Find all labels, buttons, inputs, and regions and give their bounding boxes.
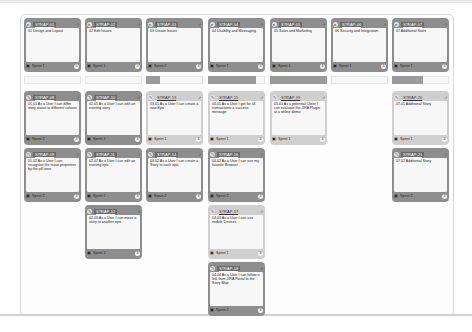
card-tools-icon[interactable]: ↗ xyxy=(76,22,79,27)
card-tools-icon[interactable]: ↗ xyxy=(76,95,79,100)
issue-key-link[interactable]: STRAP-09 xyxy=(33,152,56,157)
issue-key-link[interactable]: STRAP-13 xyxy=(155,95,178,100)
sprint-icon: ▣ xyxy=(272,137,276,141)
story-points-badge: 3 xyxy=(258,137,263,142)
card-tools-icon[interactable]: ↗ xyxy=(260,95,263,100)
issue-key-link[interactable]: STRAP-18 xyxy=(217,266,240,271)
sprint-label: Sprint 2 xyxy=(32,137,44,141)
issue-key-link[interactable]: STRAP-01 xyxy=(33,22,56,27)
story-icon: ✎ xyxy=(210,152,215,157)
story-summary: 02.03 As a User I can move a story to an… xyxy=(87,215,140,249)
epic-card[interactable]: ◐STRAP-04↗04 Usability and Messaging▣Spr… xyxy=(208,18,265,72)
card-tools-icon[interactable]: ↗ xyxy=(137,152,140,157)
issue-key-link[interactable]: STRAP-06 xyxy=(340,22,363,27)
issue-key-link[interactable]: STRAP-05 xyxy=(279,22,302,27)
story-card[interactable]: ✎STRAP-08↗01.01 As a User I can differ s… xyxy=(24,91,81,145)
story-card[interactable]: ✎STRAP-19↗05.01 As a potential Client I … xyxy=(270,91,327,145)
story-card[interactable]: ✎STRAP-21↗07.02 Additional Story▣Sprint … xyxy=(392,148,449,202)
card-footer: ▣Sprint 13 xyxy=(272,135,325,143)
card-header: ✎STRAP-15↗ xyxy=(210,93,263,101)
sprint-icon: ▣ xyxy=(148,137,152,141)
card-tools-icon[interactable]: ↗ xyxy=(383,22,386,27)
card-tools-icon[interactable]: ↗ xyxy=(444,95,447,100)
release-slot xyxy=(85,76,142,84)
issue-key-link[interactable]: STRAP-16 xyxy=(217,152,240,157)
card-tools-icon[interactable]: ↗ xyxy=(198,95,201,100)
card-tools-icon[interactable]: ↗ xyxy=(444,22,447,27)
sprint-icon: ▣ xyxy=(87,251,91,255)
card-tools-icon[interactable]: ↗ xyxy=(137,22,140,27)
epic-card[interactable]: ◐STRAP-06↗06 Security and Integration▣Sp… xyxy=(331,18,388,72)
sprint-label: Sprint 2 xyxy=(154,194,166,198)
epic-card[interactable]: ◐STRAP-03↗03 Create Issues▣Sprint 23 xyxy=(146,18,203,72)
story-card[interactable]: ✎STRAP-14↗03.02 As a User I can create a… xyxy=(146,148,203,202)
card-footer: ▣Sprint 23 xyxy=(394,192,447,200)
epic-title: 03 Create Issues xyxy=(148,28,201,62)
issue-key-link[interactable]: STRAP-11 xyxy=(94,152,117,157)
issue-key-link[interactable]: STRAP-21 xyxy=(401,152,424,157)
story-card[interactable]: ✎STRAP-13↗03.01 As a User I can create a… xyxy=(146,91,203,145)
story-card[interactable]: ✎STRAP-12↗02.03 As a User I can move a s… xyxy=(85,205,142,259)
issue-key-link[interactable]: STRAP-14 xyxy=(155,152,178,157)
card-tools-icon[interactable]: ↗ xyxy=(444,152,447,157)
card-tools-icon[interactable]: ↗ xyxy=(76,152,79,157)
story-card[interactable]: ✎STRAP-10↗02.01 As a User I can edit an … xyxy=(85,91,142,145)
card-footer: ▣Sprint 23 xyxy=(210,306,263,314)
story-card[interactable]: ✎STRAP-20↗07.01 Additional Story▣Sprint … xyxy=(392,91,449,145)
epic-card[interactable]: ◐STRAP-02↗02 Edit Issues▣Sprint 12 xyxy=(85,18,142,72)
card-tools-icon[interactable]: ↗ xyxy=(198,22,201,27)
issue-key-link[interactable]: STRAP-08 xyxy=(33,95,56,100)
card-footer: ▣Sprint 13 xyxy=(272,62,325,70)
card-header: ✎STRAP-18↗ xyxy=(210,264,263,272)
epic-title: 04 Usability and Messaging xyxy=(210,28,263,62)
story-summary: 04.04 As a User I can follow a link from… xyxy=(210,272,263,306)
story-card[interactable]: ✎STRAP-18↗04.04 As a User I can follow a… xyxy=(208,262,265,316)
issue-key-link[interactable]: STRAP-04 xyxy=(217,22,240,27)
issue-key-link[interactable]: STRAP-19 xyxy=(279,95,302,100)
story-summary: 07.02 Additional Story xyxy=(394,158,447,192)
issue-key-link[interactable]: STRAP-07 xyxy=(401,22,424,27)
issue-key-link[interactable]: STRAP-20 xyxy=(401,95,424,100)
card-tools-icon[interactable]: ↗ xyxy=(322,22,325,27)
issue-key-link[interactable]: STRAP-12 xyxy=(94,209,117,214)
sprint-icon: ▣ xyxy=(333,64,337,68)
issue-key-link[interactable]: STRAP-02 xyxy=(94,22,117,27)
epic-icon: ◐ xyxy=(26,22,31,27)
card-tools-icon[interactable]: ↗ xyxy=(260,152,263,157)
card-header: ◐STRAP-07↗ xyxy=(394,20,447,28)
epic-card[interactable]: ◐STRAP-05↗05 Sales and Marketing▣Sprint … xyxy=(270,18,327,72)
story-points-badge: 3 xyxy=(135,137,140,142)
story-card[interactable]: ✎STRAP-16↗04.02 As a User I can use my f… xyxy=(208,148,265,202)
story-summary: 05.01 As a potential Client I can evalua… xyxy=(272,101,325,135)
sprint-label: Sprint 2 xyxy=(216,194,228,198)
issue-key-link[interactable]: STRAP-15 xyxy=(217,95,240,100)
card-header: ✎STRAP-11↗ xyxy=(87,150,140,158)
story-icon: ✎ xyxy=(210,266,215,271)
story-card[interactable]: ✎STRAP-09↗01.02 As a User I can recognis… xyxy=(24,148,81,202)
story-summary: 01.02 As a User I can recognise the issu… xyxy=(26,158,79,192)
issue-key-link[interactable]: STRAP-10 xyxy=(94,95,117,100)
story-points-badge: 3 xyxy=(258,308,263,313)
card-header: ✎STRAP-21↗ xyxy=(394,150,447,158)
card-tools-icon[interactable]: ↗ xyxy=(322,95,325,100)
story-card[interactable]: ✎STRAP-15↗04.01 As a User I get for all … xyxy=(208,91,265,145)
story-summary: 04.01 As a User I get for all transactio… xyxy=(210,101,263,135)
sprint-label: Sprint 2 xyxy=(93,194,105,198)
card-header: ✎STRAP-19↗ xyxy=(272,93,325,101)
epic-card[interactable]: ◐STRAP-01↗01 Design and Layout▣Sprint 15 xyxy=(24,18,81,72)
story-points-badge: 3 xyxy=(74,194,79,199)
card-tools-icon[interactable]: ↗ xyxy=(137,209,140,214)
epic-card[interactable]: ◐STRAP-07↗07 Additional Stors▣Sprint 13 xyxy=(392,18,449,72)
sprint-icon: ▣ xyxy=(87,194,91,198)
issue-key-link[interactable]: STRAP-03 xyxy=(155,22,178,27)
issue-key-link[interactable]: STRAP-17 xyxy=(217,209,240,214)
card-tools-icon[interactable]: ↗ xyxy=(260,266,263,271)
card-tools-icon[interactable]: ↗ xyxy=(137,95,140,100)
card-tools-icon[interactable]: ↗ xyxy=(198,152,201,157)
card-tools-icon[interactable]: ↗ xyxy=(260,22,263,27)
card-tools-icon[interactable]: ↗ xyxy=(260,209,263,214)
story-card[interactable]: ✎STRAP-11↗02.02 As a User I can edit an … xyxy=(85,148,142,202)
story-card[interactable]: ✎STRAP-17↗04.03 As a User I can use mobi… xyxy=(208,205,265,259)
card-header: ✎STRAP-14↗ xyxy=(148,150,201,158)
card-footer: ▣Sprint 13 xyxy=(210,135,263,143)
